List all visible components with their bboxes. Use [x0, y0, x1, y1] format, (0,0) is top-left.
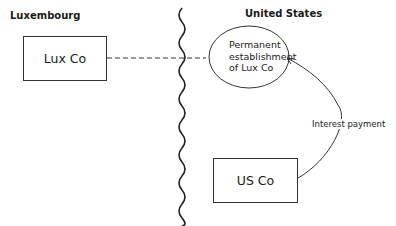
- lux-co-label: Lux Co: [44, 51, 86, 66]
- region-label-luxembourg: Luxembourg: [10, 10, 80, 21]
- lux-co-box: Lux Co: [23, 36, 107, 81]
- interest-payment-label: Interest payment: [311, 119, 386, 129]
- diagram-lines: [0, 0, 396, 226]
- region-label-united-states: United States: [245, 8, 322, 19]
- border-wavy-line: [179, 8, 185, 226]
- us-co-label: US Co: [237, 173, 274, 188]
- us-co-box: US Co: [213, 158, 298, 203]
- permanent-establishment-label: Permanent establishment of Lux Co: [229, 39, 296, 74]
- pe-line-2: establishment: [229, 51, 296, 63]
- pe-line-3: of Lux Co: [229, 62, 296, 74]
- pe-line-1: Permanent: [229, 39, 296, 51]
